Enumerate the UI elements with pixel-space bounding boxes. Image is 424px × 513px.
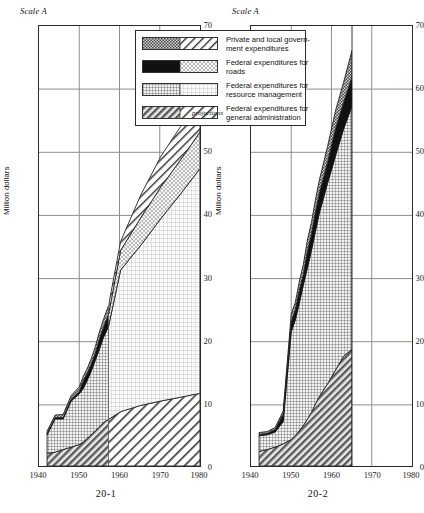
legend-label-general-administration: Federal expenditures for general adminis… <box>226 104 310 122</box>
y-tick-right-50: 50 <box>390 146 424 156</box>
legend-swatch-roads <box>142 60 218 73</box>
legend-swatch-resource-management <box>142 83 218 96</box>
y-tick-right-60: 60 <box>390 83 424 93</box>
y-tick-left-50: 50 <box>178 146 212 156</box>
x-tick-right-1940: 1940 <box>242 470 259 480</box>
legend: Private and local govern- ment expenditu… <box>135 30 306 126</box>
x-tick-right-1950: 1950 <box>282 470 299 480</box>
y-tick-right-40: 40 <box>390 209 424 219</box>
chart-caption-20-1: 20-1 <box>0 488 212 499</box>
y-tick-left-30: 30 <box>178 273 212 283</box>
y-tick-left-40: 40 <box>178 209 212 219</box>
y-tick-left-10: 10 <box>178 399 212 409</box>
x-tick-left-1980: 1980 <box>191 470 208 480</box>
legend-label-roads: Federal expenditures for roads <box>226 58 310 76</box>
y-tick-right-30: 30 <box>390 273 424 283</box>
x-tick-right-1970: 1970 <box>364 470 381 480</box>
x-tick-left-1940: 1940 <box>30 470 47 480</box>
y-axis-label-left: Million dollars <box>2 167 11 215</box>
x-tick-left-1960: 1960 <box>111 470 128 480</box>
legend-label-resource-management: Federal expenditures for resource manage… <box>226 81 310 99</box>
legend-projections-note: projections <box>192 109 223 117</box>
legend-label-private-local: Private and local govern- ment expenditu… <box>226 35 310 53</box>
y-tick-left-70: 70 <box>178 20 212 30</box>
figure-container: Scale A Million dollars <box>0 0 424 513</box>
y-tick-right-10: 10 <box>390 399 424 409</box>
y-tick-left-20: 20 <box>178 336 212 346</box>
y-tick-right-20: 20 <box>390 336 424 346</box>
x-tick-right-1980: 1980 <box>403 470 420 480</box>
chart-caption-20-2: 20-2 <box>212 488 424 499</box>
y-tick-right-70: 70 <box>390 20 424 30</box>
x-tick-left-1970: 1970 <box>152 470 169 480</box>
y-axis-label-right: Million dollars <box>214 167 223 215</box>
x-tick-left-1950: 1950 <box>70 470 87 480</box>
legend-swatch-private-local <box>142 37 218 50</box>
scale-label-right: Scale A <box>232 6 259 16</box>
x-tick-right-1960: 1960 <box>323 470 340 480</box>
scale-label-left: Scale A <box>20 6 47 16</box>
